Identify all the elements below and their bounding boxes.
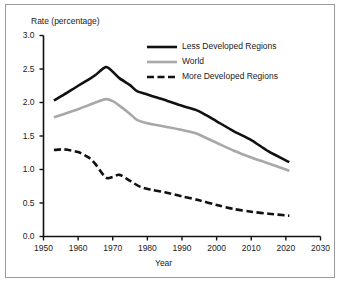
legend-label-more-developed-regions: More Developed Regions bbox=[182, 71, 278, 81]
y-tick-label: 0.5 bbox=[15, 198, 35, 208]
y-tick-label: 0.0 bbox=[15, 231, 35, 241]
x-tick-label: 1960 bbox=[63, 243, 93, 253]
x-tick-label: 2000 bbox=[202, 243, 232, 253]
x-tick-label: 2030 bbox=[306, 243, 336, 253]
y-axis-title: Rate (percentage) bbox=[31, 16, 100, 26]
line-chart-plot bbox=[0, 0, 341, 284]
y-tick-label: 1.0 bbox=[15, 164, 35, 174]
series-line-less-developed-regions bbox=[54, 67, 289, 162]
data-series-group bbox=[54, 67, 289, 216]
axes-group bbox=[40, 36, 321, 241]
y-tick-label: 2.5 bbox=[15, 64, 35, 74]
legend-swatches-group bbox=[147, 47, 177, 77]
x-tick-label: 1950 bbox=[29, 243, 59, 253]
y-tick-label: 2.0 bbox=[15, 97, 35, 107]
legend-label-less-developed-regions: Less Developed Regions bbox=[182, 41, 277, 51]
series-line-world bbox=[54, 99, 289, 171]
x-tick-label: 2020 bbox=[271, 243, 301, 253]
chart-container: Rate (percentage) Year 3.02.52.01.51.00.… bbox=[0, 0, 341, 284]
x-tick-label: 1970 bbox=[98, 243, 128, 253]
x-tick-label: 2010 bbox=[236, 243, 266, 253]
x-axis-title: Year bbox=[155, 258, 172, 268]
x-tick-label: 1990 bbox=[167, 243, 197, 253]
y-tick-label: 3.0 bbox=[15, 30, 35, 40]
legend-label-world: World bbox=[182, 56, 204, 66]
y-tick-label: 1.5 bbox=[15, 131, 35, 141]
x-tick-label: 1980 bbox=[132, 243, 162, 253]
